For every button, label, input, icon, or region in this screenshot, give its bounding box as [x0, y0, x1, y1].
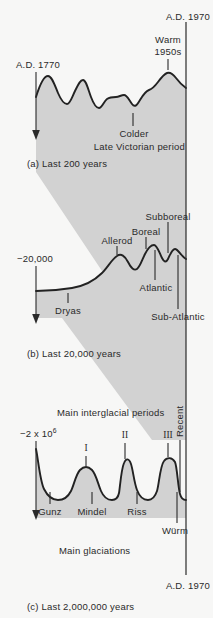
panel-c-start-label-text: −2 x 10: [20, 428, 53, 439]
panel-c-interglacial-3-label: III: [158, 430, 178, 440]
climate-time-scales-figure: A.D. 1970 Warm 1950s A.D. 1770 Colder La…: [0, 0, 213, 618]
panel-b-start-label: −20,000: [17, 253, 53, 264]
panel-c-interglacial-1-label: I: [76, 443, 96, 453]
panel-c-mindel-label: Mindel: [68, 506, 116, 517]
panel-b-dryas-label: Dryas: [45, 305, 91, 316]
panel-c-end-label: A.D. 1970: [110, 580, 210, 591]
connector-band-b-c: [62, 318, 186, 440]
panel-c-start-label-exponent: 6: [53, 427, 57, 434]
panel-c-heading-bottom: Main glaciations: [59, 545, 130, 556]
panel-b-sub-atlantic-label: Sub-Atlantic: [135, 311, 213, 322]
panel-b-subboreal-label: Subboreal: [134, 211, 202, 222]
panel-c-riss-label: Riss: [118, 506, 156, 517]
panel-a-colder-label: Colder: [105, 128, 163, 139]
panel-a-start-label: A.D. 1770: [16, 59, 60, 70]
panel-c-interglacial-2-label: II: [115, 430, 135, 440]
panel-c-gunz-label: Gunz: [29, 506, 71, 517]
panel-c-caption: (c) Last 2,000,000 years: [27, 601, 134, 612]
panel-a-caption: (a) Last 200 years: [27, 158, 107, 169]
panel-a-warm-label-line2: 1950s: [138, 46, 198, 57]
panel-a-end-label: A.D. 1970: [110, 11, 210, 22]
panel-a-warm-label-line1: Warm: [138, 34, 198, 45]
panel-a-late-victorian-label: Late Victorian period: [60, 141, 185, 152]
panel-b-allerod-label: Allerod: [92, 235, 142, 246]
panel-c-heading-top: Main interglacial periods: [57, 407, 164, 418]
panel-c-wurm-label: Würm: [152, 525, 198, 536]
panel-b-atlantic-label: Atlantic: [130, 282, 182, 293]
panel-b-caption: (b) Last 20,000 years: [27, 348, 121, 359]
panel-c-start-label: −2 x 106: [20, 425, 57, 439]
